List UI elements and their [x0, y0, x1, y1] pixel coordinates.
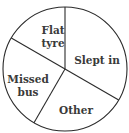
label-flat-tyre-line1: Flat	[41, 24, 64, 36]
pie-chart: Flat tyre Slept in Missed bus Other	[0, 0, 129, 133]
label-slept-in: Slept in	[74, 54, 120, 66]
label-flat-tyre-line2: tyre	[41, 37, 64, 49]
label-missed-bus-line2: bus	[18, 86, 39, 98]
label-other: Other	[59, 104, 93, 116]
label-missed-bus-line1: Missed	[7, 73, 49, 85]
